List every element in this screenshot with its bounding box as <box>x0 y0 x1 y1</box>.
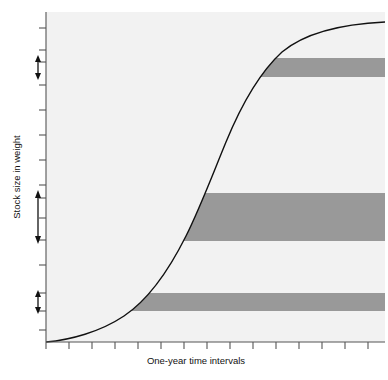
y-axis-label: Stock size in weight <box>11 135 22 219</box>
x-axis-label: One-year time intervals <box>147 355 245 366</box>
stock-growth-chart: One-year time intervals Stock size in we… <box>0 0 388 380</box>
